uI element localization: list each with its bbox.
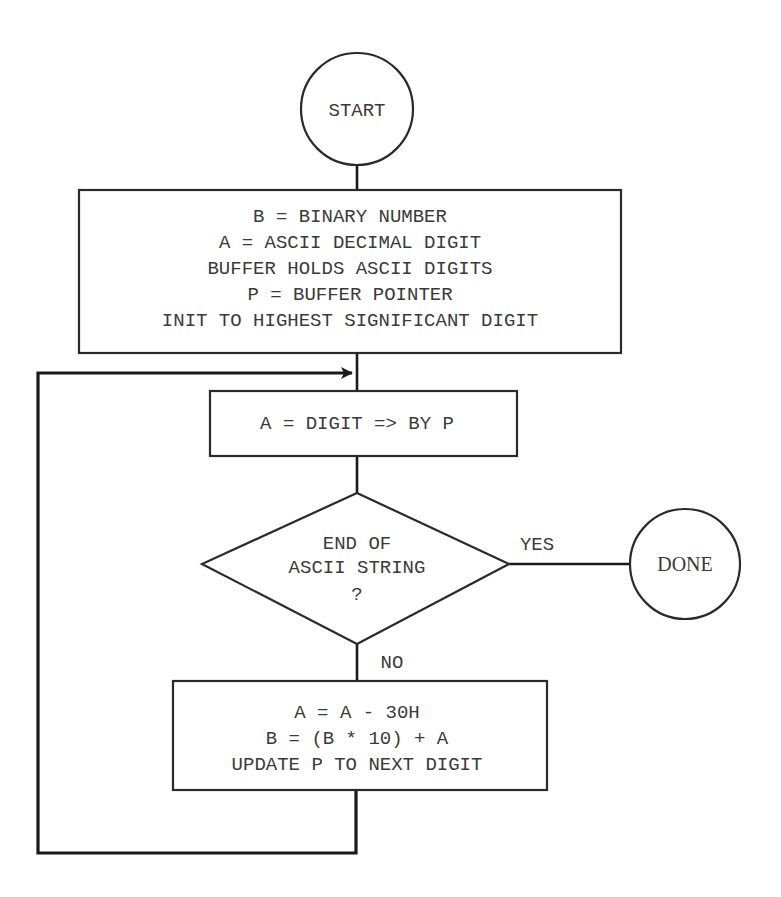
- init-line-4: P = BUFFER POINTER: [247, 284, 452, 306]
- fetch-line-1: A = DIGIT => BY P: [260, 413, 454, 435]
- start-label: START: [328, 100, 385, 122]
- decision-node: END OF ASCII STRING ?: [202, 493, 509, 644]
- convert-line-1: A = A - 30H: [294, 702, 419, 724]
- start-node: START: [301, 53, 413, 165]
- convert-line-2: B = (B * 10) + A: [266, 728, 449, 750]
- init-line-5: INIT TO HIGHEST SIGNIFICANT DIGIT: [162, 310, 538, 332]
- init-line-3: BUFFER HOLDS ASCII DIGITS: [207, 258, 492, 280]
- convert-node: A = A - 30H B = (B * 10) + A UPDATE P TO…: [173, 681, 547, 790]
- init-node: B = BINARY NUMBER A = ASCII DECIMAL DIGI…: [79, 190, 621, 353]
- decision-line-2: ASCII STRING: [289, 557, 426, 579]
- done-label: DONE: [657, 553, 713, 575]
- no-label: NO: [381, 652, 404, 674]
- convert-line-3: UPDATE P TO NEXT DIGIT: [232, 754, 483, 776]
- done-node: DONE: [630, 509, 740, 619]
- yes-label: YES: [520, 534, 554, 556]
- init-line-2: A = ASCII DECIMAL DIGIT: [219, 232, 481, 254]
- decision-line-3: ?: [351, 584, 362, 606]
- init-line-1: B = BINARY NUMBER: [253, 206, 447, 228]
- decision-line-1: END OF: [323, 533, 391, 555]
- fetch-node: A = DIGIT => BY P: [210, 391, 517, 456]
- flowchart-canvas: START B = BINARY NUMBER A = ASCII DECIMA…: [0, 0, 781, 897]
